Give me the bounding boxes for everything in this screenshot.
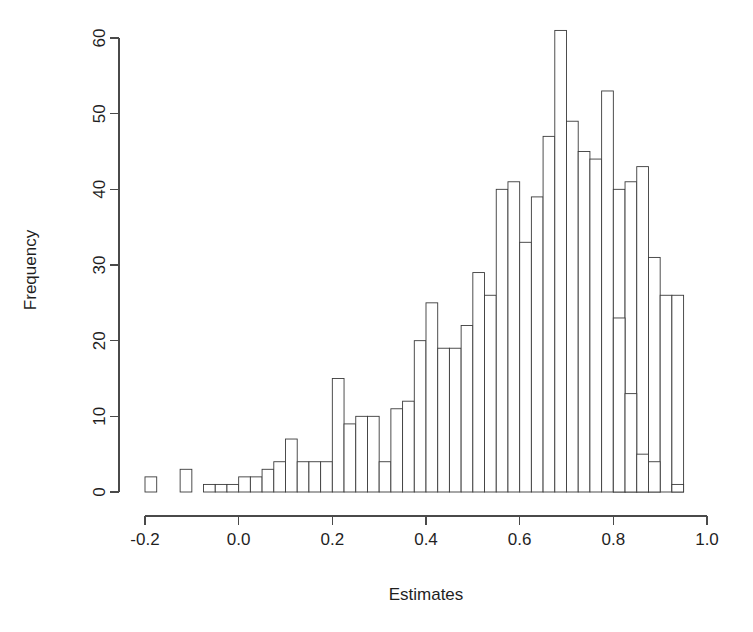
- histogram-bar: [215, 484, 227, 492]
- histogram-bar: [367, 416, 379, 492]
- histogram-bar: [391, 409, 403, 492]
- histogram-bar: [250, 477, 262, 492]
- histogram-bar: [274, 462, 286, 492]
- histogram-plot: -0.20.00.20.40.60.81.0 0102030405060 Est…: [0, 0, 753, 632]
- y-axis-tick-label: 20: [90, 331, 109, 350]
- x-axis-title: Estimates: [389, 585, 464, 604]
- histogram-bar: [449, 348, 461, 492]
- histogram-figure: -0.20.00.20.40.60.81.0 0102030405060 Est…: [0, 0, 753, 632]
- histogram-bar: [414, 341, 426, 492]
- histogram-bar: [648, 257, 660, 492]
- histogram-bar: [239, 477, 251, 492]
- histogram-bar: [356, 416, 368, 492]
- histogram-bar: [426, 303, 438, 492]
- y-axis-tick-label: 0: [90, 487, 109, 496]
- histogram-bar: [590, 159, 602, 492]
- histogram-bar: [332, 379, 344, 493]
- histogram-bar: [180, 469, 192, 492]
- histogram-bar: [145, 477, 157, 492]
- x-axis-tick-label: 0.6: [508, 530, 532, 549]
- y-axis-title: Frequency: [21, 229, 40, 310]
- histogram-bar: [648, 462, 660, 492]
- histogram-bar: [379, 462, 391, 492]
- x-axis-tick-label: 0.4: [414, 530, 438, 549]
- histogram-bar: [461, 326, 473, 492]
- y-axis-tick-label: 40: [90, 180, 109, 199]
- histogram-bar: [567, 121, 579, 492]
- x-axis-tick-label: 1.0: [695, 530, 719, 549]
- histogram-bar: [496, 189, 508, 492]
- x-axis-tick-label: -0.2: [130, 530, 159, 549]
- histogram-bar: [637, 454, 649, 492]
- y-axis-tick-label: 30: [90, 256, 109, 275]
- histogram-bar: [344, 424, 356, 492]
- histogram-bar: [660, 295, 672, 492]
- histogram-bar: [578, 152, 590, 493]
- histogram-bar: [485, 295, 497, 492]
- histogram-bar: [262, 469, 274, 492]
- histogram-bar: [555, 30, 567, 492]
- x-axis-tick-label: 0.2: [321, 530, 345, 549]
- x-axis-tick-label: 0.8: [602, 530, 626, 549]
- y-axis-tick-label: 60: [90, 29, 109, 48]
- histogram-bar: [508, 182, 520, 492]
- histogram-bar: [204, 484, 216, 492]
- histogram-bar: [321, 462, 333, 492]
- histogram-bar: [286, 439, 298, 492]
- histogram-bar: [613, 318, 625, 492]
- histogram-bar: [520, 242, 532, 492]
- histogram-bar: [625, 394, 637, 492]
- y-axis-tick-label: 10: [90, 407, 109, 426]
- histogram-bar: [672, 295, 684, 492]
- histogram-bar: [473, 273, 485, 492]
- histogram-bar: [531, 197, 543, 492]
- histogram-bar: [637, 167, 649, 492]
- histogram-bar: [309, 462, 321, 492]
- histogram-bar: [438, 348, 450, 492]
- y-axis-tick-label: 50: [90, 104, 109, 123]
- histogram-bar: [227, 484, 239, 492]
- histogram-bar: [403, 401, 415, 492]
- x-axis-tick-label: 0.0: [227, 530, 251, 549]
- histogram-bar: [543, 136, 555, 492]
- histogram-bar: [297, 462, 309, 492]
- histogram-bar: [602, 91, 614, 492]
- histogram-bar: [672, 484, 684, 492]
